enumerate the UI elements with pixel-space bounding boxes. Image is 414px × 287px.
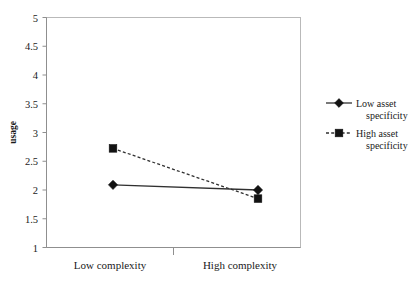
y-tick-label: 1.5 [25,214,38,225]
x-tick-label-high-complexity: High complexity [203,259,278,271]
y-tick-label: 3 [33,128,38,139]
plot-area-frame [47,18,301,248]
y-axis-title: usage [8,121,18,144]
y-tick-label: 2.5 [25,156,38,167]
y-tick-label: 3.5 [25,99,38,110]
legend-label-low-asset-specificity-line2: specificity [366,110,408,121]
y-tick-label: 2 [33,185,38,196]
legend-label-high-asset-specificity-line2: specificity [366,140,408,151]
y-tick-label: 4.5 [25,41,38,52]
chart-canvas: 5 4.5 4 3.5 3 2.5 2 1.5 1 usage Low comp… [0,0,414,287]
data-point-square-low-complexity [109,145,117,153]
legend-label-high-asset-specificity-line1: High asset [356,128,398,139]
y-tick-label: 1 [33,243,38,254]
legend-label-low-asset-specificity-line1: Low asset [356,98,396,109]
interaction-plot-figure: 5 4.5 4 3.5 3 2.5 2 1.5 1 usage Low comp… [0,0,414,287]
y-tick-label: 5 [33,13,38,24]
data-point-square-high-complexity [254,195,262,203]
legend-square-marker-icon [335,129,343,137]
x-tick-label-low-complexity: Low complexity [74,259,147,271]
y-tick-label: 4 [33,70,39,81]
